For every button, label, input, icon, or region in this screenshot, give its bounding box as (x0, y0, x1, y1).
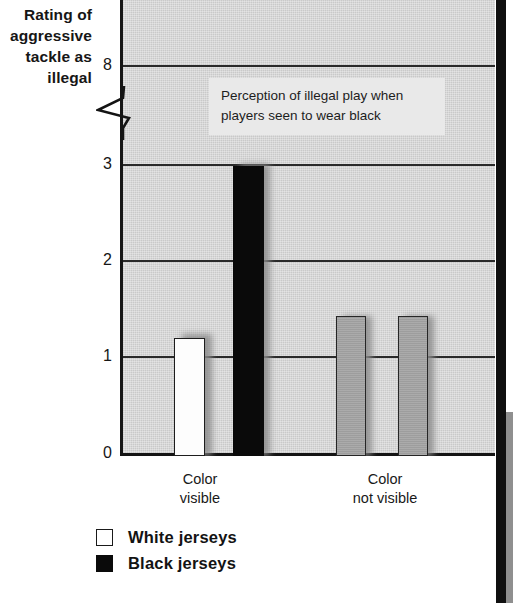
bar-black-jerseys-color-not-visible (398, 316, 428, 456)
y-tick-label-1: 1 (78, 347, 112, 365)
legend-label-black-jerseys: Black jerseys (128, 554, 236, 573)
legend-item-black-jerseys: Black jerseys (96, 550, 237, 576)
gridline-8 (122, 65, 495, 67)
plot-area (122, 0, 495, 456)
axis-break-icon (96, 84, 132, 140)
page-edge-strip (506, 412, 513, 603)
x-category-label-color-not-visible: Color not visible (330, 470, 440, 508)
bar-chart-figure: Rating of aggressive tackle as illegal 8… (0, 0, 513, 603)
bar-white-jerseys-color-not-visible (336, 316, 366, 456)
y-axis-line (120, 0, 123, 456)
y-tick-label-2: 2 (78, 251, 112, 269)
y-tick-label-8: 8 (78, 56, 112, 74)
bar-white-jerseys-color-visible (174, 338, 205, 456)
legend-swatch-white-icon (96, 529, 113, 546)
legend: White jerseys Black jerseys (96, 524, 237, 576)
y-axis-caption: Rating of aggressive tackle as illegal (0, 4, 92, 88)
legend-label-white-jerseys: White jerseys (128, 528, 237, 547)
x-category-label-color-visible: Color visible (150, 470, 250, 508)
gridline-2 (122, 260, 495, 262)
annotation-callout: Perception of illegal play when players … (209, 78, 445, 135)
y-tick-label-3: 3 (78, 155, 112, 173)
y-tick-label-0: 0 (78, 444, 112, 462)
legend-swatch-black-icon (96, 555, 113, 572)
page-edge-band (496, 0, 506, 603)
gridline-3 (122, 164, 495, 166)
bar-black-jerseys-color-visible (233, 166, 264, 456)
legend-item-white-jerseys: White jerseys (96, 524, 237, 550)
